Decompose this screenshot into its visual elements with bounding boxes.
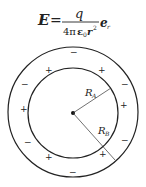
radius-a-sub: A: [91, 92, 97, 99]
spherical-shell-diagram: R A R B + + + + + + − − − − − −: [0, 40, 146, 187]
minus-sign: −: [121, 135, 129, 145]
plus-sign: +: [99, 149, 107, 159]
plus-sign: +: [120, 100, 128, 110]
minus-sign: −: [24, 137, 32, 147]
radius-b-sub: B: [104, 130, 110, 137]
plus-sign: +: [98, 65, 106, 75]
minus-sign: −: [121, 79, 129, 89]
coulomb-field-formula: E = q 4π ε 0 r 2 e r: [0, 4, 146, 40]
formula-equals: =: [50, 12, 62, 28]
plus-sign: +: [20, 104, 28, 114]
formula-denominator-4pi: 4π: [63, 26, 76, 37]
formula-denominator-r-sup: 2: [93, 24, 97, 31]
minus-sign: −: [69, 167, 77, 177]
formula-numerator: q: [75, 6, 83, 21]
formula-unit-vector-sub: r: [107, 23, 111, 30]
minus-sign: −: [21, 79, 29, 89]
plus-sign: +: [45, 152, 53, 162]
plus-sign: +: [45, 65, 53, 75]
formula-lhs: E: [37, 11, 50, 29]
minus-sign: −: [70, 47, 78, 57]
